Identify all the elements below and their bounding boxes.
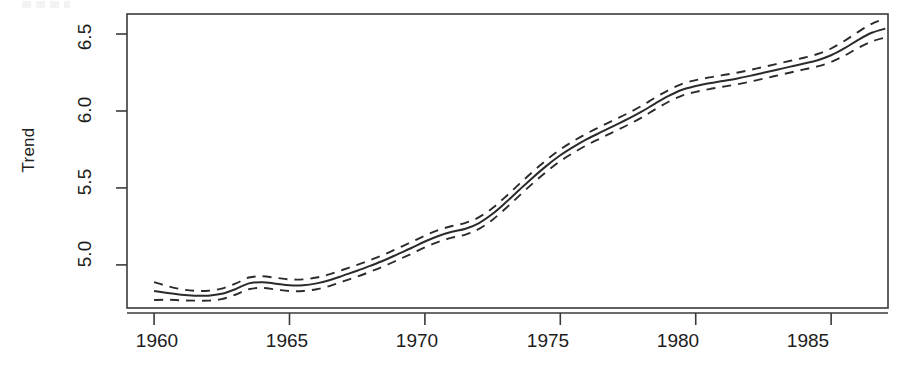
x-tick-label-5: 1985 (773, 330, 843, 352)
plot-area (0, 0, 911, 381)
x-axis-ticks (154, 313, 831, 325)
y-axis-title: Trend (19, 95, 39, 205)
x-tick-label-1: 1965 (252, 330, 322, 352)
plot-frame-box (127, 14, 888, 308)
y-tick-label-1: 5.5 (74, 156, 96, 208)
x-tick-label-4: 1980 (643, 330, 713, 352)
y-tick-label-2: 6.0 (74, 84, 96, 136)
series-group (154, 19, 885, 301)
trend-chart-figure: Trend 5.0 5.5 6.0 6.5 1960 1965 1970 197… (0, 0, 911, 381)
y-tick-label-3: 6.5 (74, 11, 96, 63)
series-line-1 (154, 19, 885, 291)
y-tick-label-0: 5.0 (74, 228, 96, 280)
series-line-0 (154, 29, 885, 296)
axis-group (116, 14, 888, 325)
x-tick-label-3: 1975 (513, 330, 583, 352)
x-tick-label-0: 1960 (122, 330, 192, 352)
x-tick-label-2: 1970 (382, 330, 452, 352)
series-line-2 (154, 37, 885, 300)
y-axis-ticks (116, 34, 127, 265)
